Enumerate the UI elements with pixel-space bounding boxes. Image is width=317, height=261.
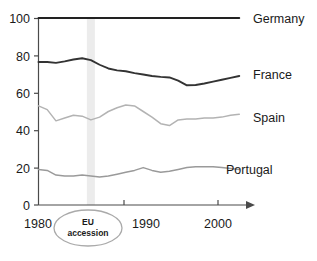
y-tick-label-20: 20: [16, 162, 30, 176]
y-tick-label-0: 0: [23, 199, 30, 213]
x-tick-label-2000: 2000: [204, 217, 232, 231]
y-tick-label-60: 60: [16, 87, 30, 101]
series-label-spain: Spain: [253, 111, 285, 125]
chart-container: 100 80 60 40 20 0 1980 1990 2000 Germany…: [0, 0, 317, 261]
series-line-portugal: [39, 167, 240, 177]
y-tick-label-40: 40: [16, 124, 30, 138]
series-label-portugal: Portugal: [226, 163, 273, 177]
series-label-germany: Germany: [253, 12, 305, 26]
x-axis-ticks: [124, 200, 218, 205]
x-axis-arrow-icon: [246, 201, 255, 209]
eu-accession-label-line2: accession: [67, 228, 108, 238]
series-line-spain: [39, 105, 240, 126]
y-tick-label-100: 100: [9, 12, 30, 26]
y-axis-ticks: [34, 19, 39, 206]
line-chart: 100 80 60 40 20 0 1980 1990 2000 Germany…: [0, 0, 317, 261]
series-line-france: [39, 58, 240, 85]
x-tick-label-1980: 1980: [24, 217, 52, 231]
x-tick-label-1990: 1990: [132, 217, 160, 231]
eu-accession-label-line1: EU: [82, 217, 94, 227]
series-label-france: France: [253, 68, 292, 82]
y-tick-label-80: 80: [16, 50, 30, 64]
